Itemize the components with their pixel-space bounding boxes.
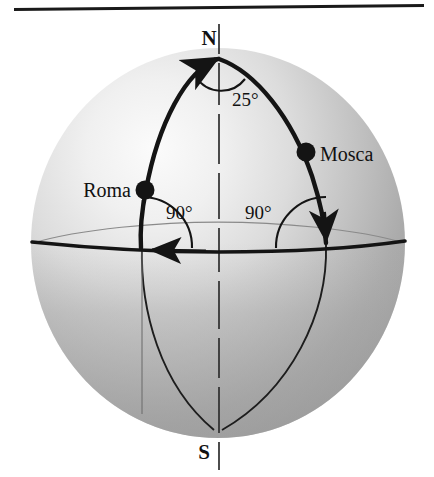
label-south-pole: S [198,440,210,464]
mosca-equator-arrow [324,212,326,238]
figure-root: N S Roma Mosca 25° 90° 90° [0,0,434,477]
label-mosca: Mosca [320,143,373,165]
label-angle-apex: 25° [232,89,259,110]
label-roma: Roma [83,179,131,201]
marker-mosca[interactable] [297,143,316,162]
equator-direction-arrow [152,250,206,251]
label-north-pole: N [201,26,216,50]
marker-roma[interactable] [136,181,155,200]
globe-diagram: N S Roma Mosca 25° 90° 90° [0,0,434,477]
label-angle-roma: 90° [166,202,193,223]
label-angle-mosca: 90° [245,202,272,223]
